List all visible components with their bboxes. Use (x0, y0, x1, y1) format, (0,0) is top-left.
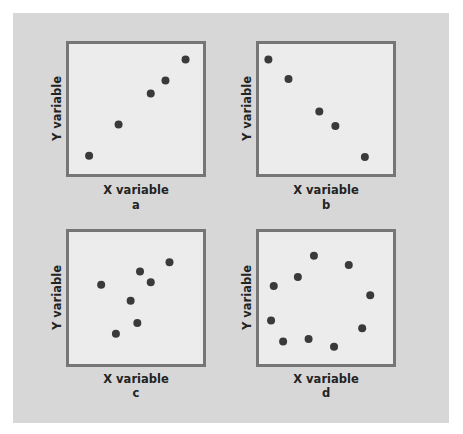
panel-caption: d (256, 387, 396, 400)
data-point (331, 122, 339, 130)
scatter-plot-a (66, 41, 206, 177)
data-point (127, 297, 135, 305)
scatter-points (69, 232, 203, 364)
data-point (112, 330, 120, 338)
panel-caption: a (66, 199, 206, 212)
data-point (97, 281, 105, 289)
data-point (345, 261, 353, 269)
x-axis-label: X variable (66, 184, 206, 197)
data-point (284, 75, 292, 83)
data-point (330, 343, 338, 351)
data-point (315, 108, 323, 116)
scatter-plot-b (256, 41, 396, 177)
data-point (133, 319, 141, 327)
data-point (264, 56, 272, 64)
data-point (361, 153, 369, 161)
data-point (270, 282, 278, 290)
data-point (147, 278, 155, 286)
y-axis-label: Y variable (51, 248, 64, 348)
scatter-plot-c (66, 229, 206, 367)
data-point (279, 338, 287, 346)
y-axis-label: Y variable (241, 59, 254, 159)
data-point (136, 268, 144, 276)
data-point (294, 273, 302, 281)
data-point (310, 252, 318, 260)
data-point (305, 335, 313, 343)
data-point (358, 324, 366, 332)
y-axis-label: Y variable (241, 248, 254, 348)
data-point (182, 56, 190, 64)
scatter-points (69, 44, 203, 174)
data-point (161, 76, 169, 84)
data-point (147, 89, 155, 97)
scatter-plot-d (256, 229, 396, 367)
x-axis-label: X variable (256, 184, 396, 197)
y-axis-label: Y variable (51, 59, 64, 159)
data-point (267, 316, 275, 324)
panel-caption: b (256, 199, 396, 212)
data-point (85, 152, 93, 160)
data-point (115, 121, 123, 129)
panel-caption: c (66, 387, 206, 400)
scatter-points (259, 232, 393, 364)
scatter-points (259, 44, 393, 174)
x-axis-label: X variable (256, 373, 396, 386)
data-point (366, 291, 374, 299)
data-point (166, 258, 174, 266)
x-axis-label: X variable (66, 373, 206, 386)
